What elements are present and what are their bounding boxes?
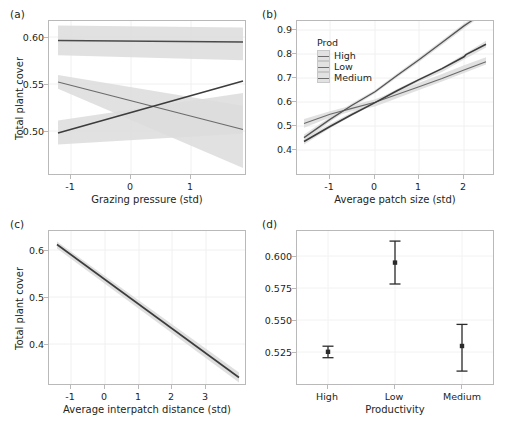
- panel-d-xtick-low: Low: [372, 391, 416, 402]
- panel-a-xtick-2: 1: [176, 181, 204, 192]
- panel-c-xtick-0: -1: [56, 391, 84, 402]
- panel-a-xtick-0: -1: [56, 181, 84, 192]
- panel-a-ribbon-high: [58, 26, 243, 61]
- panel-d-errorbar-medium: [457, 324, 468, 371]
- panel-c-xtickmark-0: [70, 385, 71, 389]
- panel-b-plot-area: Prod High Low Medium: [296, 20, 494, 175]
- panel-d-xtick-medium: Medium: [437, 391, 487, 402]
- panel-b-xtickmark-1: [374, 175, 375, 179]
- panel-c-xtickmark-4: [205, 385, 206, 389]
- panel-a-x-axis-label: Grazing pressure (std): [48, 194, 246, 205]
- panel-b-xtick-1: 0: [360, 181, 388, 192]
- panel-d-ytick-2: 0.550: [258, 315, 292, 326]
- panel-c-y-axis-label: Total plant cover: [14, 267, 25, 350]
- panel-a-xtick-1: 0: [116, 181, 144, 192]
- panel-c-ytick-1: 0.5: [16, 292, 44, 303]
- panel-d-x-axis-label: Productivity: [296, 404, 494, 415]
- panel-c-ytick-0: 0.6: [16, 245, 44, 256]
- panel-a-ytick-1: 0.55: [16, 79, 44, 90]
- figure-panel-grid: (a) Total plant cover 0.60 0.55 0.50: [0, 0, 506, 428]
- panel-b-legend-item-medium[interactable]: Medium: [317, 72, 372, 83]
- panel-d-errorbar-low: [390, 241, 401, 284]
- panel-c-ytick-2: 0.4: [16, 339, 44, 350]
- legend-key-icon-medium: [317, 72, 330, 83]
- panel-b-legend-item-high[interactable]: High: [317, 50, 372, 61]
- panel-c-line: [57, 245, 239, 378]
- panel-c-xtickmark-1: [104, 385, 105, 389]
- panel-a-xtickmark-1: [130, 175, 131, 179]
- panel-b-xtickmark-3: [463, 175, 464, 179]
- panel-b-ytick-3: 0.6: [266, 96, 292, 107]
- panel-d-ytick-1: 0.575: [258, 283, 292, 294]
- panel-b-legend-label-medium: Medium: [334, 72, 372, 83]
- panel-b-x-axis-label: Average patch size (std): [296, 194, 494, 205]
- panel-c-xtickmark-3: [171, 385, 172, 389]
- legend-key-icon-low: [317, 61, 330, 72]
- panel-c-xtick-4: 3: [191, 391, 219, 402]
- panel-b-tag: (b): [262, 8, 277, 20]
- panel-b-xtickmark-2: [418, 175, 419, 179]
- panel-b-ytick-1: 0.8: [266, 48, 292, 59]
- panel-d-svg: [297, 231, 493, 384]
- panel-c-xtick-3: 2: [157, 391, 185, 402]
- panel-b-ytick-4: 0.5: [266, 120, 292, 131]
- panel-b-legend-item-low[interactable]: Low: [317, 61, 372, 72]
- panel-d-plot-area: [296, 230, 494, 385]
- legend-key-icon-high: [317, 50, 330, 61]
- panel-a-xtickmark-0: [70, 175, 71, 179]
- panel-c-plot-area: [48, 230, 246, 385]
- panel-b-ytick-2: 0.7: [266, 72, 292, 83]
- panel-b-xtick-3: 2: [449, 181, 477, 192]
- panel-a-tag: (a): [10, 8, 25, 20]
- panel-d-xtick-high: High: [305, 391, 349, 402]
- panel-b-legend-title: Prod: [317, 37, 372, 48]
- panel-b-ytick-0: 0.9: [266, 24, 292, 35]
- panel-a-ytick-0: 0.60: [16, 32, 44, 43]
- panel-d-xtickmark-2: [461, 385, 462, 389]
- panel-c-svg: [49, 231, 245, 384]
- panel-a-svg: [49, 21, 245, 174]
- panel-b-legend-label-high: High: [334, 50, 356, 61]
- panel-b-legend: Prod High Low Medium: [317, 37, 372, 83]
- panel-a-plot-area: [48, 20, 246, 175]
- panel-c-ribbon: [57, 242, 239, 383]
- panel-c-xtick-2: 1: [124, 391, 152, 402]
- panel-c-xtick-1: 0: [90, 391, 118, 402]
- panel-b-xtickmark-0: [329, 175, 330, 179]
- panel-d-ytick-3: 0.525: [258, 347, 292, 358]
- panel-c-x-axis-label: Average interpatch distance (std): [40, 404, 254, 415]
- panel-b-xtick-0: -1: [315, 181, 343, 192]
- panel-d-ytick-0: 0.600: [258, 251, 292, 262]
- panel-b-xtick-2: 1: [404, 181, 432, 192]
- panel-d-tag: (d): [262, 218, 277, 230]
- panel-d-xtickmark-0: [327, 385, 328, 389]
- panel-a-ytick-2: 0.50: [16, 126, 44, 137]
- panel-b-ytick-5: 0.4: [266, 144, 292, 155]
- panel-c-xtickmark-2: [138, 385, 139, 389]
- panel-d-xtickmark-1: [394, 385, 395, 389]
- panel-c-tag: (c): [10, 218, 24, 230]
- panel-b-legend-label-low: Low: [334, 61, 353, 72]
- panel-a-xtickmark-2: [190, 175, 191, 179]
